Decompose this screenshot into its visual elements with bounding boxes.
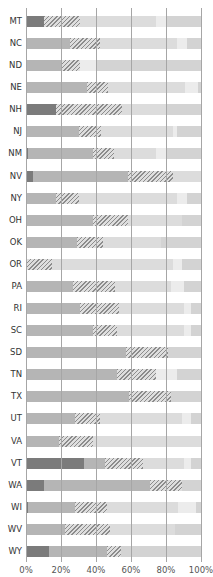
bar-segment-medium	[26, 391, 129, 402]
bar-row-sc: SC	[0, 325, 213, 336]
bar-segment-lighter	[171, 281, 183, 292]
bar-segment-hatched	[105, 458, 144, 469]
bar-segment-hatched	[56, 193, 79, 204]
bar-segment-light	[101, 126, 173, 137]
category-label: NY	[0, 193, 22, 204]
bar-row-wv: WV	[0, 524, 213, 535]
bar-row-va: VA	[0, 436, 213, 447]
bar-segment-end	[187, 38, 201, 49]
bar-segment-medium	[26, 524, 65, 535]
category-label: NC	[0, 38, 22, 49]
stacked-bar	[26, 436, 201, 447]
bar-segment-end	[182, 480, 201, 491]
bar-row-ny: NY	[0, 193, 213, 204]
bar-segment-medium	[49, 546, 107, 557]
bar-segment-light	[119, 303, 184, 314]
bar-segment-medium	[26, 237, 77, 248]
category-label: NV	[0, 171, 22, 182]
bar-segment-medium	[26, 369, 117, 380]
bar-row-nj: NJ	[0, 126, 213, 137]
stacked-bar	[26, 104, 201, 115]
bar-segment-end	[168, 347, 201, 358]
bar-segment-hatched	[61, 60, 80, 71]
bar-segment-lighter	[80, 60, 96, 71]
x-tick-label: 80%	[157, 565, 176, 575]
bar-segment-medium	[26, 60, 61, 71]
bar-segment-lighter	[156, 16, 167, 27]
bar-segment-end	[182, 259, 201, 270]
bar-segment-lighter	[185, 82, 197, 93]
bar-segment-end	[182, 215, 201, 226]
bar-segment-end	[191, 458, 202, 469]
category-label: TN	[0, 369, 22, 380]
category-label: ND	[0, 60, 22, 71]
stacked-bar	[26, 546, 201, 557]
bar-segment-dark	[26, 458, 84, 469]
stacked-bar	[26, 237, 201, 248]
bar-segment-light	[80, 16, 155, 27]
category-label: RI	[0, 303, 22, 314]
gridline	[201, 8, 202, 562]
bar-segment-end	[96, 60, 201, 71]
bar-row-nm: NM	[0, 148, 213, 159]
stacked-bar	[26, 325, 201, 336]
bar-segment-light	[107, 502, 179, 513]
bar-segment-hatched	[129, 391, 171, 402]
bar-segment-hatched	[56, 104, 123, 115]
category-label: NE	[0, 82, 22, 93]
bar-segment-light	[128, 215, 182, 226]
bar-row-ut: UT	[0, 413, 213, 424]
bar-segment-end	[166, 148, 201, 159]
stacked-bar	[26, 82, 201, 93]
bar-segment-medium	[26, 215, 93, 226]
stacked-bar	[26, 259, 201, 270]
bar-segment-light	[117, 325, 184, 336]
gridline	[61, 8, 62, 562]
bar-segment-light	[100, 413, 182, 424]
x-tick-label: 60%	[122, 565, 141, 575]
stacked-bar	[26, 215, 201, 226]
bar-segment-lighter	[184, 303, 191, 314]
bar-row-oh: OH	[0, 215, 213, 226]
stacked-bar	[26, 391, 201, 402]
category-label: PA	[0, 281, 22, 292]
category-label: OK	[0, 237, 22, 248]
bar-segment-end	[184, 281, 202, 292]
x-tick-label: 40%	[87, 565, 106, 575]
bar-segment-medium	[26, 193, 56, 204]
gridline	[96, 8, 97, 562]
bar-segment-hatched	[79, 126, 102, 137]
bar-row-vt: VT	[0, 458, 213, 469]
category-label: NH	[0, 104, 22, 115]
category-label: WV	[0, 524, 22, 535]
bar-segment-hatched	[126, 347, 168, 358]
bar-segment-lighter	[156, 148, 167, 159]
bar-segment-hatched	[26, 259, 52, 270]
bar-segment-end	[121, 546, 202, 557]
bar-segment-lighter	[177, 193, 188, 204]
bar-segment-dark	[26, 480, 44, 491]
bar-segment-lighter	[173, 259, 182, 270]
bar-segment-dark	[26, 546, 49, 557]
x-tick-label: 20%	[52, 565, 71, 575]
stacked-bar	[26, 126, 201, 137]
bar-segment-hatched	[59, 436, 92, 447]
bar-segment-dark	[26, 171, 33, 182]
bar-row-nd: ND	[0, 60, 213, 71]
bar-segment-medium	[26, 436, 59, 447]
bar-segment-lighter	[184, 325, 191, 336]
bar-segment-end	[166, 104, 201, 115]
category-label: SC	[0, 325, 22, 336]
bar-row-sd: SD	[0, 347, 213, 358]
stacked-bar	[26, 369, 201, 380]
bar-segment-medium	[26, 413, 75, 424]
x-tick-label: 100%	[189, 565, 213, 575]
bar-row-nc: NC	[0, 38, 213, 49]
bar-segment-light	[122, 104, 166, 115]
bar-segment-light	[173, 171, 201, 182]
stacked-bar	[26, 171, 201, 182]
category-label: UT	[0, 413, 22, 424]
bar-row-nh: NH	[0, 104, 213, 115]
bar-row-wi: WI	[0, 502, 213, 513]
stacked-bar	[26, 281, 201, 292]
